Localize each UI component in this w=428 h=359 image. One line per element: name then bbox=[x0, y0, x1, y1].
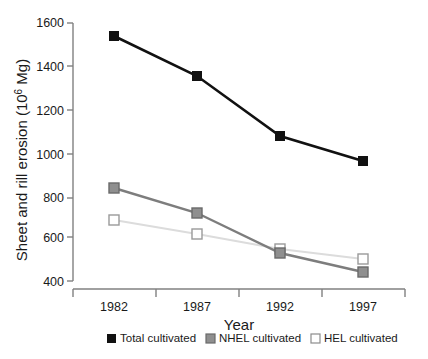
data-point-hel bbox=[358, 254, 368, 264]
line-chart: Sheet and rill erosion (106 Mg) 1600 140… bbox=[0, 0, 428, 359]
legend-swatch-nhel bbox=[206, 334, 215, 343]
legend-swatch-total bbox=[107, 334, 116, 343]
series-line-hel bbox=[114, 220, 363, 259]
x-axis-label: Year bbox=[224, 316, 254, 333]
series-nhel-cultivated bbox=[109, 183, 368, 277]
y-tick-label: 600 bbox=[43, 231, 64, 245]
data-point-total bbox=[358, 156, 368, 166]
data-point-nhel bbox=[192, 208, 202, 218]
x-tick-labels: 1982 1987 1992 1997 bbox=[100, 300, 377, 314]
y-tick-label: 1600 bbox=[36, 16, 64, 30]
series-line-total bbox=[114, 36, 363, 161]
data-point-hel bbox=[109, 215, 119, 225]
series-line-nhel bbox=[114, 188, 363, 272]
y-axis-label-main: Sheet and rill erosion (10 bbox=[13, 94, 30, 261]
series-hel-cultivated bbox=[109, 215, 368, 264]
data-point-total bbox=[109, 31, 119, 41]
x-tick-label: 1992 bbox=[266, 300, 294, 314]
y-axis bbox=[67, 23, 73, 281]
y-tick-label: 1200 bbox=[36, 104, 64, 118]
y-tick-label: 1000 bbox=[36, 148, 64, 162]
x-tick-label: 1982 bbox=[100, 300, 128, 314]
data-point-hel bbox=[192, 229, 202, 239]
svg-text:Sheet and rill erosion (106 Mg: Sheet and rill erosion (106 Mg) bbox=[13, 59, 30, 261]
legend-swatch-hel bbox=[311, 334, 320, 343]
y-tick-label: 800 bbox=[43, 191, 64, 205]
chart-legend: Total cultivated NHEL cultivated HEL cul… bbox=[107, 332, 398, 344]
series-total-cultivated bbox=[109, 31, 368, 166]
y-axis-label-tail: Mg) bbox=[13, 59, 30, 89]
data-point-nhel bbox=[358, 267, 368, 277]
legend-label-hel: HEL cultivated bbox=[324, 332, 398, 344]
y-tick-labels: 1600 1400 1200 1000 800 600 400 bbox=[36, 16, 64, 289]
legend-label-total: Total cultivated bbox=[120, 332, 196, 344]
y-axis-label: Sheet and rill erosion (106 Mg) bbox=[13, 59, 30, 261]
data-point-total bbox=[275, 131, 285, 141]
legend-label-nhel: NHEL cultivated bbox=[219, 332, 301, 344]
data-point-nhel bbox=[275, 248, 285, 258]
y-tick-label: 1400 bbox=[36, 60, 64, 74]
chart-figure: Sheet and rill erosion (106 Mg) 1600 140… bbox=[0, 0, 428, 359]
x-tick-label: 1987 bbox=[183, 300, 211, 314]
data-point-total bbox=[192, 71, 202, 81]
x-axis bbox=[73, 289, 405, 297]
y-tick-label: 400 bbox=[43, 275, 64, 289]
data-point-nhel bbox=[109, 183, 119, 193]
x-tick-label: 1997 bbox=[349, 300, 377, 314]
